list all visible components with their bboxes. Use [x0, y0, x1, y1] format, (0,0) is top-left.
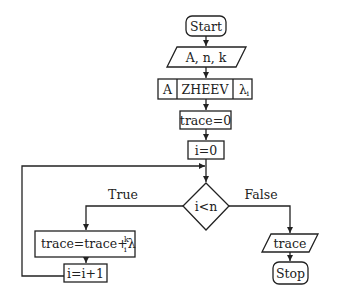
- update-trace-process: trace=trace+λ i k: [35, 231, 136, 257]
- input-parallelogram: A, n, k: [167, 47, 246, 67]
- start-terminal: Start: [186, 16, 226, 36]
- false-branch-arrow: [229, 206, 290, 233]
- zheev-name-label: ZHEEV: [182, 82, 230, 97]
- stop-terminal: Stop: [273, 262, 308, 284]
- init-i-label: i=0: [195, 143, 217, 158]
- loop-back-arrow: [22, 166, 205, 276]
- init-trace-label: trace=0: [180, 113, 231, 128]
- zheev-process: A ZHEEV λ i: [158, 79, 252, 99]
- condition-decision: i<n: [183, 183, 229, 230]
- zheev-input-label: A: [162, 82, 173, 97]
- zheev-output-subscript: i: [247, 89, 250, 98]
- flowchart: Start A, n, k A ZHEEV λ i trace=0 i=0 i<…: [0, 0, 339, 302]
- output-parallelogram: trace: [262, 234, 318, 252]
- start-label: Start: [190, 19, 222, 34]
- increment-process: i=i+1: [64, 264, 107, 282]
- update-trace-label: trace=trace+λ: [41, 236, 136, 251]
- stop-label: Stop: [276, 266, 305, 281]
- update-trace-superscript: k: [124, 235, 129, 244]
- input-label: A, n, k: [185, 50, 227, 65]
- increment-label: i=i+1: [67, 266, 104, 281]
- output-label: trace: [274, 236, 307, 251]
- update-trace-subscript: i: [124, 245, 127, 254]
- false-label: False: [244, 187, 277, 202]
- true-branch-arrow: [86, 206, 183, 230]
- init-trace-process: trace=0: [180, 111, 231, 129]
- condition-label: i<n: [195, 199, 218, 214]
- true-label: True: [108, 187, 138, 202]
- init-i-process: i=0: [188, 141, 224, 159]
